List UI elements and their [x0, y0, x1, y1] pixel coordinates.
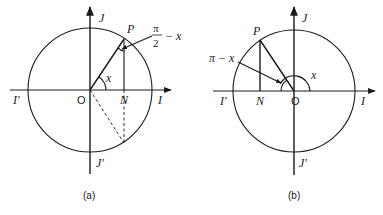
label-n: N: [119, 93, 129, 107]
label-j-prime: J′: [96, 156, 104, 170]
label-i: I: [360, 94, 366, 108]
label-j: J: [302, 11, 308, 25]
label-i: I: [157, 93, 163, 107]
label-n: N: [255, 94, 265, 108]
unit-circle-diagrams: J J′ I I′ O N P x π 2 − x (a) J J′ I I′ …: [0, 0, 383, 215]
caption-a: (a): [83, 190, 95, 201]
label-p: P: [126, 22, 135, 36]
label-complement-minus-x: − x: [165, 29, 182, 43]
figure-b: J J′ I I′ O N P x π − x (b): [209, 7, 375, 201]
label-origin: O: [77, 94, 86, 106]
caption-b: (b): [288, 190, 300, 201]
dashed-radius: [90, 90, 124, 143]
label-j-prime: J′: [299, 156, 307, 170]
label-complement-denominator: 2: [153, 37, 159, 49]
label-complement-numerator: π: [153, 22, 159, 34]
label-supplement: π − x: [209, 51, 235, 65]
angle-x-arc: [99, 77, 106, 90]
radius-op: [260, 40, 294, 91]
figure-a: J J′ I I′ O N P x π 2 − x (a): [10, 7, 182, 201]
label-i-prime: I′: [219, 94, 227, 108]
label-angle-x: x: [310, 68, 317, 82]
label-j: J: [99, 11, 105, 25]
label-p: P: [252, 24, 261, 38]
label-i-prime: I′: [12, 93, 20, 107]
complement-pointer: [122, 36, 152, 49]
label-origin: O: [291, 95, 300, 107]
label-angle-x: x: [105, 71, 112, 85]
